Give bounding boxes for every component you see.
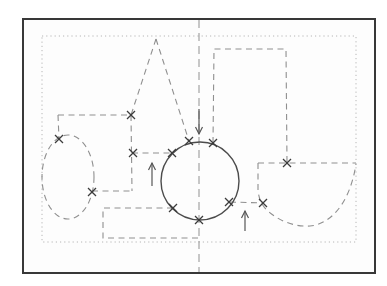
diagram-svg	[0, 0, 387, 286]
diagram-page	[0, 0, 387, 286]
